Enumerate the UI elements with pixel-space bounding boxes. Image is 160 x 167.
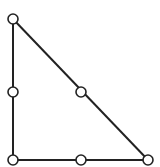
node-bottom-mid [76, 155, 86, 165]
node-bottom-right [143, 155, 153, 165]
triangle-diagram [0, 0, 160, 167]
node-top [8, 14, 18, 24]
node-bottom-left [8, 155, 18, 165]
node-left-mid [8, 87, 18, 97]
node-hyp-mid [76, 87, 86, 97]
